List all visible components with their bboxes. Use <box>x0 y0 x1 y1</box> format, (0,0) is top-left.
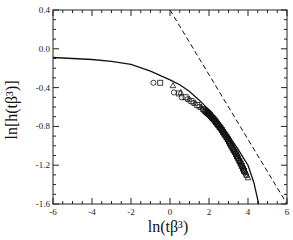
x-tick-label: -6 <box>49 207 57 217</box>
y-tick-label: 0.4 <box>39 5 51 15</box>
chart: -6-4-20246 0.40.0-0.4-0.8-1.2-1.6 ln(tβ³… <box>0 0 293 240</box>
x-tick-label: -2 <box>127 207 135 217</box>
x-tick-label: 2 <box>207 207 212 217</box>
x-tick-label: 0 <box>168 207 173 217</box>
x-tick-label: 6 <box>285 207 290 217</box>
y-tick-label: -0.4 <box>36 83 51 93</box>
y-tick-label: 0.0 <box>39 44 51 54</box>
y-tick-label: -1.2 <box>36 160 50 170</box>
x-tick-label: -4 <box>88 207 96 217</box>
y-tick-label: -1.6 <box>36 199 51 209</box>
y-axis-title: ln[h(tβ³)] <box>3 80 21 139</box>
x-tick-label: 4 <box>246 207 251 217</box>
y-tick-label: -0.8 <box>36 121 51 131</box>
x-axis-title: ln(tβ³) <box>148 218 188 236</box>
